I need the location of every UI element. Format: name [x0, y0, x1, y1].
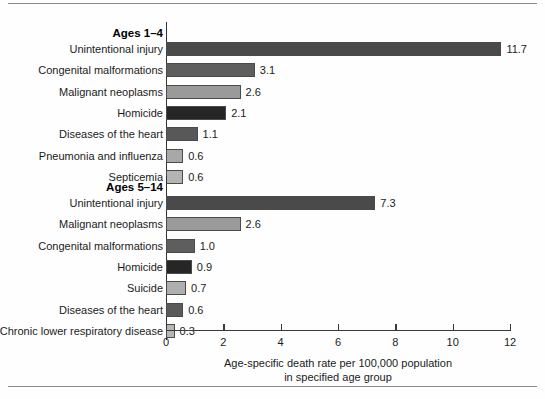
bar-chart-plot: Ages 1–4Unintentional injury11.7Congenit…: [0, 0, 545, 399]
group-heading-1: Ages 1–4: [112, 27, 163, 40]
category-label: Chronic lower respiratory disease: [0, 325, 163, 338]
group-heading-2: Ages 5–14: [106, 181, 163, 194]
bar-value-label: 2.6: [246, 217, 261, 231]
category-label: Unintentional injury: [69, 43, 163, 56]
bar: [166, 106, 226, 120]
category-label: Diseases of the heart: [59, 128, 163, 141]
bar-value-label: 0.7: [191, 281, 206, 295]
bar: [166, 170, 183, 184]
axis-tick: [453, 324, 454, 331]
axis-tick-label: 2: [220, 336, 226, 348]
category-label: Homicide: [117, 261, 163, 274]
caption-line-1: Age-specific death rate per 100,000 popu…: [224, 357, 452, 369]
category-label: Suicide: [127, 282, 163, 295]
category-label: Congenital malformations: [38, 64, 163, 77]
bar-value-label: 0.6: [188, 303, 203, 317]
axis-tick-label: 4: [278, 336, 284, 348]
axis-tick: [281, 324, 282, 331]
category-label: Unintentional injury: [69, 197, 163, 210]
bar-value-label: 0.6: [188, 149, 203, 163]
bar: [166, 303, 183, 317]
axis-tick: [510, 324, 511, 331]
bar-value-label: 2.1: [231, 106, 246, 120]
bar: [166, 239, 195, 253]
axis-tick: [395, 324, 396, 331]
bar: [166, 85, 241, 99]
caption-line-2: in specified age group: [166, 370, 510, 384]
figure-container: Ages 1–4Unintentional injury11.7Congenit…: [0, 0, 545, 399]
bar: [166, 217, 241, 231]
category-label: Homicide: [117, 107, 163, 120]
axis-tick-label: 8: [392, 336, 398, 348]
bar-value-label: 7.3: [380, 196, 395, 210]
category-label: Malignant neoplasms: [59, 86, 163, 99]
axis-tick-label: 10: [447, 336, 459, 348]
bar-value-label: 1.0: [200, 239, 215, 253]
axis-tick-label: 6: [335, 336, 341, 348]
bar: [166, 63, 255, 77]
category-label: Pneumonia and influenza: [39, 150, 163, 163]
bar-value-label: 0.9: [197, 260, 212, 274]
bar-value-label: 0.6: [188, 170, 203, 184]
bar-value-label: 3.1: [260, 63, 275, 77]
bar-value-label: 11.7: [506, 42, 527, 56]
axis-tick-label: 12: [504, 336, 516, 348]
category-label: Diseases of the heart: [59, 304, 163, 317]
axis-tick: [338, 324, 339, 331]
axis-tick: [223, 324, 224, 331]
bar-value-label: 2.6: [246, 85, 261, 99]
bar: [166, 196, 375, 210]
axis-tick-label: 0: [163, 336, 169, 348]
bar: [166, 149, 183, 163]
bar: [166, 260, 192, 274]
category-label: Malignant neoplasms: [59, 218, 163, 231]
bar: [166, 127, 198, 141]
axis-tick: [166, 324, 167, 331]
bar: [166, 281, 186, 295]
bar-value-label: 1.1: [203, 127, 218, 141]
category-label: Congenital malformations: [38, 240, 163, 253]
bar: [166, 42, 501, 56]
x-axis-caption: Age-specific death rate per 100,000 popu…: [166, 356, 510, 384]
